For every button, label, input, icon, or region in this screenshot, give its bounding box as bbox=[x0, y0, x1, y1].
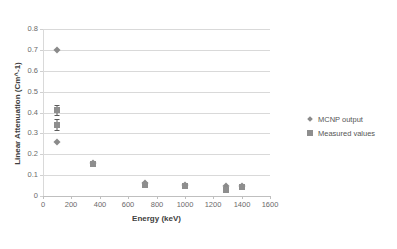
chart-legend: MCNP output Measured values bbox=[306, 112, 375, 140]
x-axis-tick-label: 1000 bbox=[170, 200, 200, 209]
x-axis-tick-label: 0 bbox=[28, 200, 58, 209]
x-axis-tick-label: 1400 bbox=[227, 200, 257, 209]
legend-label: MCNP output bbox=[318, 115, 363, 124]
y-axis-tick-label: 0.6 bbox=[28, 67, 38, 75]
x-axis-tick bbox=[43, 196, 44, 199]
x-axis-tick-label: 800 bbox=[142, 200, 172, 209]
x-axis-tick bbox=[213, 196, 214, 199]
x-axis-tick bbox=[128, 196, 129, 199]
data-point-measured-values[interactable] bbox=[90, 161, 96, 167]
y-axis-tick-label: 0.3 bbox=[28, 129, 38, 137]
plot-area bbox=[43, 29, 270, 196]
y-axis-tick-label: 0.4 bbox=[28, 109, 38, 117]
x-axis-tick bbox=[242, 196, 243, 199]
square-marker-icon bbox=[306, 128, 316, 138]
x-axis-title: Energy (keV) bbox=[43, 214, 270, 223]
data-point-measured-values[interactable] bbox=[223, 187, 229, 193]
data-point-measured-values[interactable] bbox=[54, 107, 60, 113]
error-bar-cap bbox=[55, 130, 60, 131]
data-point-measured-values[interactable] bbox=[54, 122, 60, 128]
x-axis-tick bbox=[157, 196, 158, 199]
x-axis-tick bbox=[270, 196, 271, 199]
y-axis-tick-label: 0.5 bbox=[28, 88, 38, 96]
x-axis-tick bbox=[71, 196, 72, 199]
y-axis-tick-label: 0.7 bbox=[28, 46, 38, 54]
data-point-measured-values[interactable] bbox=[142, 182, 148, 188]
y-axis-tick-label: 0.2 bbox=[28, 150, 38, 158]
data-point-measured-values[interactable] bbox=[182, 183, 188, 189]
y-axis-tick-label: 0.1 bbox=[28, 171, 38, 179]
error-bar-cap bbox=[55, 119, 60, 120]
x-axis-tick bbox=[100, 196, 101, 199]
x-axis-tick bbox=[185, 196, 186, 199]
x-axis-tick-label: 1200 bbox=[198, 200, 228, 209]
x-axis-tick-label: 600 bbox=[113, 200, 143, 209]
legend-item-mcnp-output[interactable]: MCNP output bbox=[306, 112, 375, 126]
diamond-marker-icon bbox=[306, 114, 316, 124]
y-axis-title: Linear Attenuation (Cm^-1) bbox=[13, 39, 22, 189]
y-axis-tick-label: 0.8 bbox=[28, 25, 38, 33]
x-axis-tick-label: 400 bbox=[85, 200, 115, 209]
legend-label: Measured values bbox=[318, 129, 375, 138]
legend-item-measured-values[interactable]: Measured values bbox=[306, 126, 375, 140]
error-bar-cap bbox=[55, 115, 60, 116]
x-axis-tick-label: 200 bbox=[56, 200, 86, 209]
y-axis-tick-label: 0 bbox=[34, 192, 38, 200]
y-axis-title-wrapper: Linear Attenuation (Cm^-1) bbox=[4, 29, 16, 196]
x-axis-tick-label: 1600 bbox=[255, 200, 285, 209]
linear-attenuation-scatter-chart: 00.10.20.30.40.50.60.70.8 02004006008001… bbox=[0, 0, 397, 249]
data-point-measured-values[interactable] bbox=[239, 184, 245, 190]
